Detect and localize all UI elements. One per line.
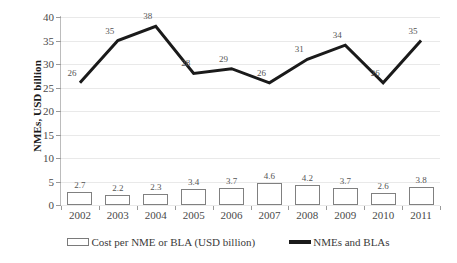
x-axis-tick-mark: [213, 206, 214, 210]
x-axis-tick-mark: [61, 206, 62, 210]
x-axis-tick-mark: [364, 206, 365, 210]
line-data-labels: 26353828292631342635: [61, 17, 440, 205]
line-data-label: 28: [168, 59, 204, 68]
line-swatch-icon: [289, 240, 311, 244]
x-axis-tick-mark: [175, 206, 176, 210]
y-axis-tick-label: 5: [14, 177, 54, 188]
chart-container: NMEs, USD billion 0510152025303540 2.72.…: [0, 0, 457, 263]
y-axis-tick-label: 10: [14, 153, 54, 164]
x-axis-tick-mark: [251, 206, 252, 210]
line-data-label: 26: [357, 69, 393, 78]
line-data-label: 35: [395, 27, 431, 36]
line-data-label: 29: [206, 55, 242, 64]
legend-item-nmes-and-blas[interactable]: NMEs and BLAs: [289, 236, 389, 248]
legend-item-cost-per-nme[interactable]: Cost per NME or BLA (USD billion): [67, 236, 255, 248]
line-data-label: 35: [92, 27, 128, 36]
line-data-label: 38: [130, 12, 166, 21]
line-data-label: 34: [319, 31, 355, 40]
y-axis-tick-label: 0: [14, 200, 54, 211]
y-axis-tick-label: 20: [14, 106, 54, 117]
y-axis-tick-label: 30: [14, 59, 54, 70]
y-axis-tick-label: 15: [14, 130, 54, 141]
x-axis-tick-mark: [326, 206, 327, 210]
x-axis-tick-mark: [440, 206, 441, 210]
x-axis-tick-mark: [288, 206, 289, 210]
x-axis-tick-label: 2011: [397, 210, 445, 221]
line-data-label: 31: [281, 45, 317, 54]
y-axis-tick-label: 25: [14, 83, 54, 94]
legend-label-nmes-and-blas: NMEs and BLAs: [313, 236, 389, 248]
x-axis-tick-mark: [402, 206, 403, 210]
bar-swatch-icon: [67, 238, 89, 246]
line-data-label: 26: [243, 69, 279, 78]
legend-label-cost-per-nme: Cost per NME or BLA (USD billion): [91, 236, 255, 248]
y-axis-tick-label: 35: [14, 36, 54, 47]
line-data-label: 26: [54, 69, 90, 78]
x-axis-tick-mark: [99, 206, 100, 210]
y-axis-tick-label: 40: [14, 12, 54, 23]
chart-legend: Cost per NME or BLA (USD billion) NMEs a…: [0, 236, 457, 248]
x-axis-tick-mark: [137, 206, 138, 210]
